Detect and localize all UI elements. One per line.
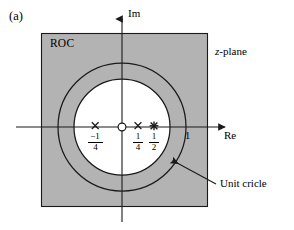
pole-marker-half — [150, 121, 159, 130]
panel-label: (a) — [9, 10, 23, 23]
real-axis-label: Re — [224, 130, 236, 141]
roc-label: ROC — [50, 38, 74, 50]
tick-label-one-half: 1 2 — [149, 132, 159, 152]
roc-shaded-region — [0, 0, 294, 230]
tick-one-half-numerator: 1 — [149, 132, 159, 141]
tick-neg-one-quarter-denominator: 4 — [88, 143, 103, 152]
imaginary-axis-label: Im — [128, 8, 140, 19]
z-plane-label: z-plane — [215, 46, 247, 57]
tick-neg-one-quarter-numerator: −1 — [88, 132, 103, 141]
tick-label-neg-one-quarter: −1 4 — [88, 132, 103, 152]
z-plane-roc-figure: (a) ROC z-plane Im Re 1 −1 4 1 4 1 2 Uni… — [0, 0, 294, 230]
tick-label-unit: 1 — [185, 131, 190, 142]
tick-neg-one-quarter-num-value: 1 — [95, 131, 100, 141]
tick-one-half-denominator: 2 — [149, 143, 159, 152]
tick-one-quarter-denominator: 4 — [133, 143, 143, 152]
zero-marker-origin — [118, 123, 126, 131]
tick-label-one-quarter: 1 4 — [133, 132, 143, 152]
tick-one-quarter-numerator: 1 — [133, 132, 143, 141]
z-plane-label-suffix: -plane — [219, 45, 246, 57]
figure-canvas — [0, 0, 294, 230]
unit-circle-callout-label: Unit cricle — [220, 178, 267, 189]
